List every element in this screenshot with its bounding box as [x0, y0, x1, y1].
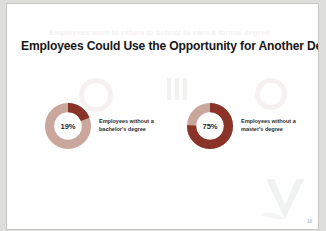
masters-degree-donut: 75% [187, 103, 233, 149]
bachelors-degree-donut: 19% [45, 103, 91, 149]
v-logo-watermark [258, 175, 312, 223]
donut-caption-masters: Employees without a master's degree [241, 118, 318, 133]
page-number: 10 [307, 219, 312, 224]
donut-value-label-bachelors: 19% [45, 103, 91, 149]
ghost-bleedthrough-text: Employees want to return to school to ea… [49, 28, 311, 37]
chart-group-masters: 75% Employees without a master's degree [187, 97, 318, 155]
page-title: Employees Could Use the Opportunity for … [21, 39, 311, 53]
slide-canvas: Employees want to return to school to ea… [7, 4, 318, 229]
donut-value-label-masters: 75% [187, 103, 233, 149]
donut-caption-bachelors: Employees without a bachelor's degree [99, 118, 177, 133]
chart-group-bachelors: 19% Employees without a bachelor's degre… [45, 97, 177, 155]
slide-viewer: Employees want to return to school to ea… [0, 0, 326, 231]
